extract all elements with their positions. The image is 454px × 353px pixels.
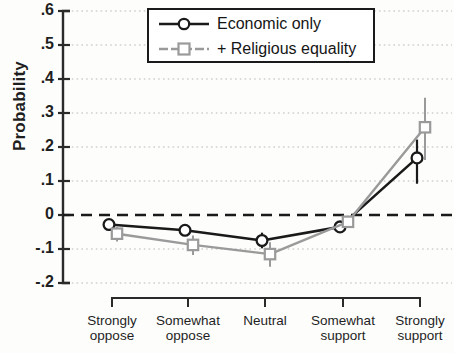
legend-key-circle-icon: [157, 14, 211, 34]
x-axis-tick-label: Somewhat support: [300, 313, 386, 343]
x-axis-tick-label: Somewhat oppose: [145, 313, 231, 343]
y-axis-tick-label: -.2: [12, 274, 54, 290]
legend-item-religious-equality: + Religious equality: [157, 36, 356, 62]
data-point-marker: [343, 217, 353, 227]
y-axis-tick-label: .4: [12, 70, 54, 86]
data-point-marker: [257, 235, 268, 246]
x-axis-tick-label: Strongly support: [377, 313, 454, 343]
chart-legend: Economic only + Religious equality: [147, 8, 375, 63]
data-point-marker: [112, 229, 122, 239]
y-axis-tick-label: -.1: [12, 240, 54, 256]
data-point-marker: [412, 152, 423, 163]
legend-label: Economic only: [217, 15, 321, 33]
probability-line-chart: Probability .6.5.4.3.2.10-.1-.2 Strongly…: [0, 0, 454, 353]
legend-key-square-icon: [157, 39, 211, 59]
x-axis-tick-label: Strongly oppose: [69, 313, 155, 343]
series-line: [109, 158, 417, 241]
y-axis-tick-label: 0: [12, 206, 54, 222]
y-axis-tick-label: .1: [12, 172, 54, 188]
data-point-marker: [188, 240, 198, 250]
legend-item-economic-only: Economic only: [157, 11, 321, 37]
data-point-marker: [420, 122, 430, 132]
y-axis-tick-label: .2: [12, 138, 54, 154]
x-axis-tick-label: Neutral: [222, 313, 308, 328]
legend-label: + Religious equality: [217, 40, 356, 58]
data-point-marker: [265, 249, 275, 259]
y-axis-tick-label: .5: [12, 36, 54, 52]
y-axis-tick-label: .3: [12, 104, 54, 120]
data-point-marker: [180, 225, 191, 236]
y-axis-tick-label: .6: [12, 2, 54, 18]
